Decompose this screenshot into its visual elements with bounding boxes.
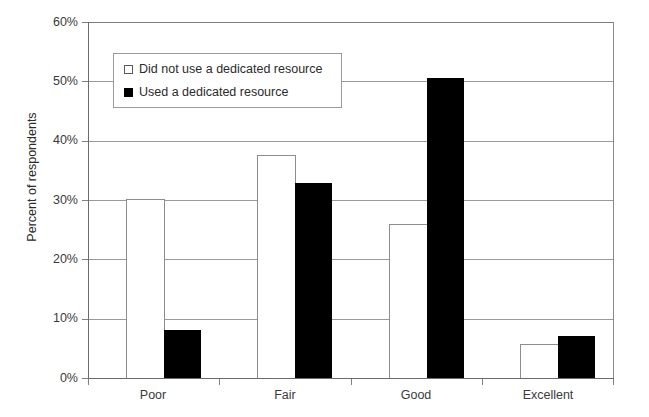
bar-good-did-not-use [389,224,428,379]
bar-poor-did-not-use [126,199,165,379]
x-tick-mark-1 [219,379,220,385]
y-tick-label-50: 50% [26,74,78,88]
plot-border-top [88,22,614,23]
bar-excellent-did-not-use [520,344,559,379]
legend-item-did-not-use: Did not use a dedicated resource [124,62,322,76]
legend-label-did-not-use: Did not use a dedicated resource [139,62,322,76]
y-tick-label-10: 10% [26,311,78,325]
x-tick-label-good: Good [356,388,476,402]
y-tick-label-60: 60% [26,15,78,29]
legend: Did not use a dedicated resource Used a … [113,53,342,108]
y-axis-line [88,22,89,379]
y-tick-label-30: 30% [26,193,78,207]
bar-excellent-used [558,336,595,379]
y-tick-label-20: 20% [26,252,78,266]
gridline-10 [88,319,614,320]
legend-swatch-white-square-icon [124,65,133,74]
y-tick-label-40: 40% [26,133,78,147]
legend-label-used: Used a dedicated resource [139,85,288,99]
x-tick-mark-3 [482,379,483,385]
gridline-20 [88,259,614,260]
plot-border-right [613,22,614,379]
x-tick-mark-0 [88,379,89,385]
gridline-30 [88,200,614,201]
bar-chart: Percent of respondents 60% 50% 40% 30% 2… [0,0,649,417]
y-axis-title: Percent of respondents [25,77,39,277]
x-tick-mark-4 [613,379,614,385]
x-tick-label-fair: Fair [225,388,345,402]
bar-good-used [427,78,464,379]
x-tick-label-excellent: Excellent [488,388,608,402]
y-tick-label-0: 0% [26,371,78,385]
bar-fair-used [295,183,332,379]
legend-swatch-black-square-icon [124,88,133,97]
bar-fair-did-not-use [257,155,296,379]
gridline-40 [88,141,614,142]
x-tick-mark-2 [351,379,352,385]
legend-item-used: Used a dedicated resource [124,85,288,99]
x-tick-label-poor: Poor [93,388,213,402]
bar-poor-used [164,330,201,379]
